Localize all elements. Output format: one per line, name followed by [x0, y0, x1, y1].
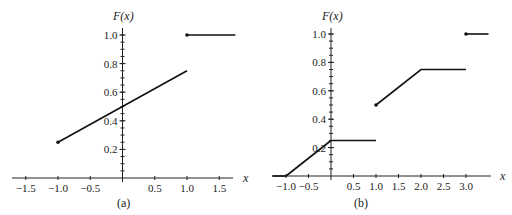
- closed-endpoint-dot: [56, 140, 60, 144]
- y-tick-label: 0.8: [104, 58, 118, 70]
- x-tick-label: 2.0: [414, 180, 428, 192]
- cdf-segment: [286, 141, 331, 177]
- figure: −1.5−1.0−0.50.51.01.50.20.40.60.81.0F(x)…: [0, 0, 512, 215]
- x-tick-label: 2.5: [437, 180, 451, 192]
- y-tick-label: 0.2: [312, 142, 326, 154]
- x-tick-label: 0.5: [347, 180, 361, 192]
- x-tick-label: 1.0: [180, 182, 194, 194]
- x-tick-label: −0.5: [80, 182, 100, 194]
- x-tick-label: 0.5: [148, 182, 162, 194]
- y-tick-label: 1.0: [104, 29, 118, 41]
- panel-caption: (a): [117, 196, 130, 210]
- cdf-segment: [376, 70, 466, 106]
- y-tick-label: 1.0: [312, 28, 326, 40]
- x-tick-label: −1.5: [16, 182, 36, 194]
- x-tick-label: −1.0: [48, 182, 68, 194]
- y-tick-label: 0.8: [312, 56, 326, 68]
- x-axis-label: x: [242, 171, 249, 185]
- closed-endpoint-dot: [185, 33, 189, 37]
- x-axis-label: x: [499, 169, 506, 183]
- closed-endpoint-dot: [374, 103, 378, 107]
- chart-panel-b: −1.0−0.50.51.01.52.02.53.00.20.40.60.81.…: [272, 9, 506, 210]
- y-tick-label: 0.4: [312, 113, 326, 125]
- x-tick-label: 3.0: [459, 180, 473, 192]
- y-axis-label: F(x): [112, 9, 134, 23]
- y-tick-label: 0.6: [104, 86, 118, 98]
- x-tick-label: −1.0: [276, 180, 296, 192]
- x-tick-label: −0.5: [299, 180, 319, 192]
- y-tick-label: 0.6: [312, 85, 326, 97]
- x-tick-label: 1.5: [392, 180, 406, 192]
- closed-endpoint-dot: [464, 32, 468, 36]
- x-tick-label: 1.0: [369, 180, 383, 192]
- x-tick-label: 1.5: [212, 182, 226, 194]
- panel-caption: (b): [354, 196, 368, 210]
- chart-panel-a: −1.5−1.0−0.50.51.01.50.20.40.60.81.0F(x)…: [12, 9, 249, 210]
- y-tick-label: 0.2: [104, 143, 118, 155]
- y-axis-label: F(x): [321, 9, 343, 23]
